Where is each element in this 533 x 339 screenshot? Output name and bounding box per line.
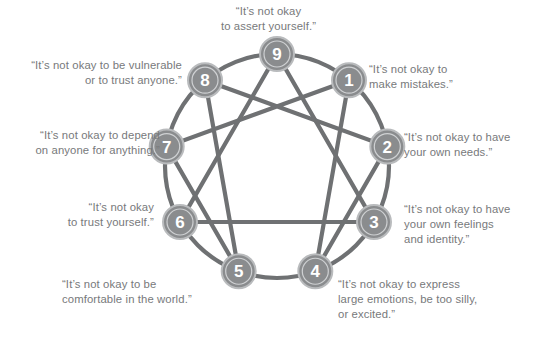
label-type-3: “It’s not okay to have your own feelings… <box>404 202 533 247</box>
node-type-6[interactable]: 6 <box>163 205 197 239</box>
node-type-8[interactable]: 8 <box>188 63 222 97</box>
node-type-9[interactable]: 9 <box>260 37 294 71</box>
label-type-1: “It’s not okay to make mistakes.” <box>369 62 529 92</box>
node-number-label: 7 <box>162 138 171 157</box>
node-number-label: 4 <box>311 262 321 281</box>
label-type-2: “It’s not okay to have your own needs.” <box>404 130 533 160</box>
label-type-7: “It’s not okay to depend on anyone for a… <box>4 128 160 158</box>
label-type-8: “It’s not okay to be vulnerable or to tr… <box>4 58 182 88</box>
node-number-label: 8 <box>200 71 209 90</box>
label-type-9: “It’s not okay to assert yourself.” <box>186 4 351 34</box>
node-number-label: 6 <box>175 213 184 232</box>
enneagram-node-group: 912345678 <box>150 37 405 288</box>
node-type-3[interactable]: 3 <box>357 205 391 239</box>
label-type-6: “It’s not okay to trust yourself.” <box>24 200 154 230</box>
node-number-label: 3 <box>369 213 378 232</box>
enneagram-diagram: 912345678 “It’s not okay to assert yours… <box>0 0 533 339</box>
label-type-4: “It’s not okay to express large emotions… <box>338 277 533 322</box>
node-type-4[interactable]: 4 <box>298 254 332 288</box>
node-number-label: 1 <box>344 71 353 90</box>
node-type-2[interactable]: 2 <box>370 130 404 164</box>
hexad-142857 <box>167 80 388 271</box>
label-type-5: “It’s not okay to be comfortable in the … <box>62 277 248 307</box>
node-type-1[interactable]: 1 <box>332 63 366 97</box>
node-number-label: 2 <box>383 138 392 157</box>
node-number-label: 9 <box>272 45 281 64</box>
